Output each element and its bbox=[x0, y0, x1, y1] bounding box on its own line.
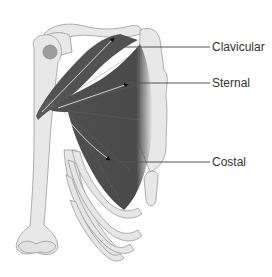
clavicular-label: Clavicular bbox=[212, 40, 265, 54]
humerus bbox=[16, 35, 61, 255]
sternal-label: Sternal bbox=[212, 76, 250, 90]
xiphoid bbox=[144, 171, 158, 206]
sternocostal-head bbox=[46, 44, 153, 210]
humeral-head bbox=[43, 45, 57, 59]
costal-label: Costal bbox=[212, 155, 246, 169]
